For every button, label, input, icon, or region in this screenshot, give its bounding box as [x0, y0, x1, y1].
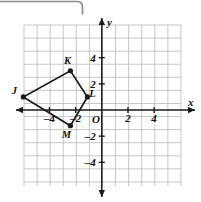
vertex-label-k: K [63, 55, 72, 66]
vertex-label-m: M [61, 129, 72, 140]
y-axis-arrow-down [99, 190, 105, 197]
vertex-markers: JKLM [11, 55, 96, 140]
figure-canvas: –4–22442–2–4 JKLM x y O [0, 0, 201, 202]
y-tick-label: –2 [84, 130, 97, 142]
x-tick-label: –4 [43, 112, 56, 124]
y-axis-label: y [105, 16, 112, 28]
coordinate-plane-figure: –4–22442–2–4 JKLM x y O [0, 0, 201, 202]
x-tick-label: 2 [124, 112, 131, 124]
rounded-frame-corner [0, 2, 83, 15]
vertex-point-k [68, 68, 73, 73]
y-tick-label: –4 [84, 156, 97, 168]
y-axis-arrow-up [99, 18, 105, 25]
vertex-point-m [68, 123, 73, 128]
x-axis-arrow-left [16, 107, 23, 113]
vertex-label-j: J [11, 85, 18, 96]
x-axis-label: x [187, 96, 194, 108]
y-tick-label: 4 [89, 52, 96, 64]
vertex-point-j [21, 94, 26, 99]
vertex-label-l: L [88, 88, 95, 99]
x-tick-label: 4 [150, 112, 157, 124]
origin-label: O [92, 113, 100, 125]
